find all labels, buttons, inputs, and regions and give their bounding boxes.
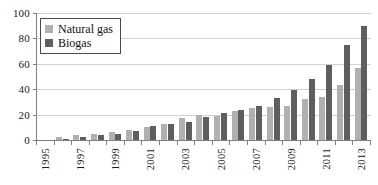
bar-biogas-2005 [221,113,227,140]
bar-group [301,13,319,140]
bar-natural-gas-2002 [161,124,167,141]
bar-natural-gas-2004 [196,115,202,140]
x-axis-line [36,140,370,141]
bar-group [248,13,266,140]
bar-biogas-2000 [133,131,139,140]
y-tick-label-20: 20 [4,109,30,120]
y-tick-label-0: 0 [4,135,30,146]
legend-swatch-icon [45,39,53,47]
x-tick-mark-2003 [177,141,178,145]
x-tick-mark-end [370,141,371,145]
bar-biogas-2011 [326,65,332,140]
x-tick-mark-2001 [141,141,142,145]
bar-biogas-2001 [150,126,156,140]
x-tick-label-1997: 1997 [75,148,86,170]
x-tick-mark-2009 [282,141,283,145]
x-tick-label-2011: 2011 [321,148,332,170]
bar-natural-gas-2011 [319,97,325,140]
bar-biogas-2006 [238,110,244,140]
bar-natural-gas-2003 [179,118,185,140]
x-tick-mark-1996 [54,141,55,145]
x-tick-label-1999: 1999 [110,148,121,170]
bar-group [213,13,231,140]
bar-group [195,13,213,140]
bar-natural-gas-2006 [232,111,238,140]
x-tick-mark-1998 [89,141,90,145]
bar-natural-gas-2005 [214,116,220,140]
bar-biogas-2010 [309,79,315,140]
bar-natural-gas-1999 [109,132,115,140]
x-tick-mark-2010 [300,141,301,145]
legend-label: Biogas [58,37,91,49]
bar-natural-gas-2001 [144,127,150,140]
bar-natural-gas-2010 [302,99,308,140]
x-tick-mark-1997 [71,141,72,145]
bar-natural-gas-2013 [355,68,361,140]
y-axis-labels: 020406080100 [0,0,30,185]
bar-biogas-2004 [203,117,209,140]
y-tick-label-80: 80 [4,33,30,44]
legend-swatch-icon [45,25,53,33]
bar-natural-gas-2007 [249,108,255,140]
bar-group [266,13,284,140]
bar-biogas-2003 [186,122,192,140]
x-tick-label-1995: 1995 [40,148,51,170]
x-tick-mark-2006 [229,141,230,145]
x-tick-mark-2005 [212,141,213,145]
bar-group [142,13,160,140]
bar-biogas-2013 [361,26,367,140]
bar-natural-gas-2009 [284,106,290,140]
y-tick-label-40: 40 [4,84,30,95]
x-tick-mark-2000 [124,141,125,145]
bar-biogas-2002 [168,124,174,141]
x-tick-label-2009: 2009 [286,148,297,170]
bar-biogas-2009 [291,90,297,140]
y-tick-label-60: 60 [4,58,30,69]
bar-natural-gas-2000 [126,130,132,140]
x-tick-mark-2008 [265,141,266,145]
legend-label: Natural gas [58,23,113,35]
x-tick-label-2001: 2001 [145,148,156,170]
x-tick-label-2003: 2003 [180,148,191,170]
x-tick-label-2005: 2005 [216,148,227,170]
y-tick-label-100: 100 [4,8,30,19]
x-tick-mark-2011 [317,141,318,145]
bar-group [230,13,248,140]
x-tick-mark-2002 [159,141,160,145]
legend-item-natural-gas: Natural gas [45,22,113,36]
bar-group [178,13,196,140]
bar-group [336,13,354,140]
x-tick-mark-1995 [36,141,37,145]
bar-group [283,13,301,140]
chart-legend: Natural gasBiogas [40,18,121,54]
bar-biogas-2007 [256,106,262,140]
legend-item-biogas: Biogas [45,36,113,50]
x-tick-label-2007: 2007 [251,148,262,170]
bar-chart: 020406080100 199519971999200120032005200… [0,0,378,185]
bar-group [353,13,371,140]
x-tick-mark-2013 [352,141,353,145]
x-tick-mark-2007 [247,141,248,145]
x-tick-mark-2004 [194,141,195,145]
bar-biogas-2008 [274,98,280,140]
x-tick-mark-2012 [335,141,336,145]
bar-natural-gas-2008 [267,107,273,140]
x-tick-mark-1999 [106,141,107,145]
bar-natural-gas-2012 [337,85,343,140]
bar-group [160,13,178,140]
bar-biogas-2012 [344,45,350,140]
bar-group [125,13,143,140]
x-tick-label-2013: 2013 [356,148,367,170]
bar-group [318,13,336,140]
